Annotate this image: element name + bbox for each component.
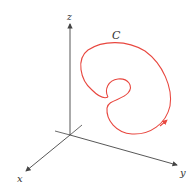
axes-and-curve	[0, 0, 192, 188]
curve-c	[81, 43, 171, 134]
x-axis-label: x	[17, 174, 23, 184]
curve-label: C	[112, 31, 120, 41]
y-axis	[70, 135, 177, 165]
y-axis-negative	[55, 131, 70, 135]
y-axis-label: y	[180, 168, 186, 178]
x-axis	[26, 135, 70, 171]
diagram-canvas: z y x C	[0, 0, 192, 188]
z-axis-label: z	[67, 12, 72, 22]
x-axis-negative	[70, 125, 82, 135]
